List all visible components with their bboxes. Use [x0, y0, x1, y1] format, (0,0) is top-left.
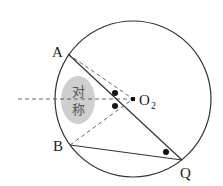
label-b: B	[53, 138, 63, 154]
label-o: O	[139, 92, 150, 108]
label-o-subscript: 2	[151, 100, 156, 111]
symmetry-text-1: 对	[72, 84, 85, 99]
geometry-diagram: 对 称 A B Q O 2	[0, 0, 223, 186]
label-q: Q	[180, 165, 191, 181]
angle-mark-1	[112, 90, 118, 96]
symmetry-text-2: 称	[72, 102, 85, 117]
center-point	[131, 97, 135, 101]
label-a: A	[52, 44, 63, 60]
angle-mark-2	[112, 103, 118, 109]
angle-mark-3	[163, 149, 169, 155]
